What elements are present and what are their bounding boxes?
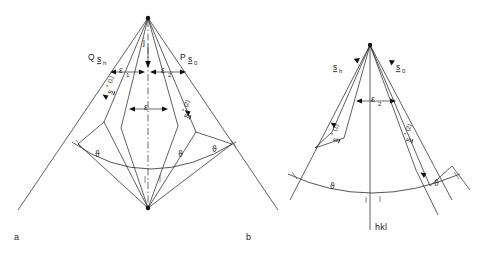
panel-b-inner-right-ray-1 <box>370 45 416 170</box>
panel-a-left-beam-label-group: Q s h <box>88 52 106 66</box>
panel-a-eps2-symbol: ε <box>161 65 165 75</box>
figure-root: Q s h P s 0 j ε 1 ε 2 ε <box>0 0 478 255</box>
panel-b-outer-left-ray <box>290 45 370 200</box>
panel-a-right-beam-vector: s <box>188 54 192 64</box>
panel-b-eps2-subscript: 2 <box>378 101 382 107</box>
panel-a-eps1-label-group: ε 1 <box>119 65 130 77</box>
panel-a-star-vec-2-label-group: s * (2) <box>179 99 196 119</box>
panel-b-eps2-symbol: ε <box>371 94 375 104</box>
panel-a-eps2-arrow-left <box>150 70 156 75</box>
panel-a: Q s h P s 0 j ε 1 ε 2 ε <box>14 16 278 243</box>
panel-b-vec-0-label-group: s 0 <box>396 62 406 74</box>
panel-a-eps2-label-group: ε 2 <box>161 65 172 77</box>
panel-a-eps-center-symbol: ε <box>144 102 148 112</box>
panel-a-arc-tick-right <box>231 140 236 147</box>
panel-a-eps1-subscript: 1 <box>126 72 130 78</box>
panel-b-arc-tick-right <box>454 172 459 179</box>
panel-a-converge-left-1 <box>104 122 148 208</box>
panel-a-star-vec-1-superscript: (1) <box>106 75 114 84</box>
panel-b-vec-h-subscript: h <box>339 68 342 74</box>
panel-b-inner-left-ray-1 <box>332 45 370 132</box>
panel-a-eps-center-arrow-left <box>129 107 135 112</box>
panel-b-star-vec-2-label-group: s * (2) <box>401 123 418 143</box>
panel-b-label: b <box>246 232 251 242</box>
panel-a-j-arrow-head <box>145 61 151 68</box>
panel-b: s h s 0 ε 2 s * (1) s * <box>246 43 470 243</box>
panel-a-eps2-subscript: 2 <box>168 72 172 78</box>
panel-a-theta-left: ϑ <box>95 149 100 159</box>
panel-b-star-vec-1-superscript: (1) <box>331 123 339 132</box>
panel-b-theta-left: ϑ <box>330 181 335 191</box>
panel-a-star-vec-2-superscript: (2) <box>182 99 190 108</box>
panel-b-theta-right: ϑ <box>434 178 439 188</box>
panel-a-apex-source-point <box>146 16 150 20</box>
panel-b-apex-source-point <box>368 43 372 47</box>
panel-b-vec-h-symbol: s <box>333 62 337 72</box>
panel-a-outer-left-ray <box>18 18 148 210</box>
panel-a-theta-mid: ϑ <box>178 149 183 159</box>
panel-b-right-zig-out <box>452 166 470 190</box>
panel-a-left-beam-prefix: Q <box>88 52 95 62</box>
panel-a-star-vec-1-arrowhead <box>103 95 109 101</box>
panel-b-eps2-label-group: ε 2 <box>371 94 382 106</box>
panel-a-left-zig <box>78 122 104 144</box>
panel-a-right-zig-return <box>148 144 232 208</box>
panel-b-star-vec-2-superscript: (2) <box>404 123 412 132</box>
panel-b-right-extend <box>416 170 438 215</box>
panel-b-plane-index-label: hkl <box>375 222 387 232</box>
panel-b-star-vec-1-label-group: s * (1) <box>328 123 345 143</box>
panel-b-arc-tick-left <box>292 172 297 179</box>
panel-a-left-beam-subscript: h <box>103 60 106 66</box>
panel-a-focus-point <box>146 206 150 210</box>
panel-a-theta-right: ϑ <box>212 144 217 154</box>
panel-b-vec-h-label-group: s h <box>333 62 342 74</box>
panel-a-left-beam-vector: s <box>97 54 101 64</box>
panel-b-vec-h-arrowhead <box>354 58 360 64</box>
panel-a-eps1-symbol: ε <box>119 65 123 75</box>
panel-a-right-beam-label-group: P s 0 <box>180 52 198 66</box>
panel-b-vec-0-symbol: s <box>396 62 400 72</box>
panel-a-eps-center-arrow-right <box>162 107 168 112</box>
panel-a-label: a <box>14 232 19 242</box>
panel-b-eps2-arrow-left <box>356 99 362 104</box>
diagram-canvas: Q s h P s 0 j ε 1 ε 2 ε <box>0 0 478 255</box>
panel-a-right-beam-subscript: 0 <box>194 60 198 66</box>
panel-a-outer-right-ray <box>148 18 278 210</box>
panel-b-vec-0-arrowhead <box>389 60 395 65</box>
panel-a-eps1-arrow-right <box>139 70 145 75</box>
panel-a-right-beam-prefix: P <box>180 52 186 62</box>
panel-a-axis-marker-label: j <box>142 37 145 47</box>
panel-b-vec-0-subscript: 0 <box>402 68 406 74</box>
panel-a-star-vec-1-label-group: s * (1) <box>103 75 120 95</box>
